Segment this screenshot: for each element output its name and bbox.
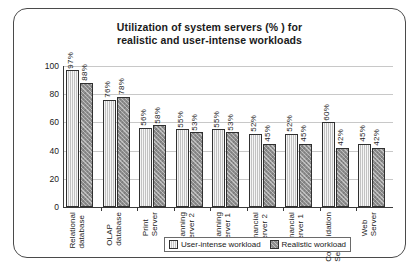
bar-value-label: 60% (322, 104, 331, 121)
chart-title: Utilization of system servers (% ) for r… (14, 21, 405, 47)
legend-label-realistic: Realistic workload (282, 240, 346, 249)
bar-group: 55%53% (210, 66, 247, 207)
y-axis-tick-label: 60 (37, 117, 59, 127)
y-axis-tick-label: 80 (37, 89, 59, 99)
y-axis-tick-label: 100 (37, 61, 59, 71)
bar-user-intense (249, 134, 262, 207)
y-axis-tick-label: 40 (37, 146, 59, 156)
bar-user-intense (66, 70, 79, 207)
bar-group: 56%58% (137, 66, 174, 207)
bar-realistic (372, 148, 385, 207)
y-axis-tick-labels: 100806040200 (35, 66, 59, 208)
bar-value-label: 45% (358, 125, 367, 142)
bar-realistic (80, 83, 93, 207)
x-axis-category-label: Print Server (141, 212, 159, 236)
bar-realistic (190, 132, 203, 207)
bar-value-label: 97% (66, 52, 75, 69)
bar-user-intense (285, 134, 298, 207)
bar-realistic (336, 148, 349, 207)
bar-realistic (153, 125, 166, 207)
bar-value-label: 88% (80, 64, 89, 81)
legend-entry-user-intense: User-intense workload (169, 240, 261, 249)
bar-value-label: 45% (263, 125, 272, 142)
bar-group: 76%78% (101, 66, 138, 207)
chart-title-line-2: realistic and user-intense workloads (14, 34, 405, 47)
bar-user-intense (176, 129, 189, 207)
bar-realistic (263, 144, 276, 207)
legend-label-user-intense: User-intense workload (181, 240, 261, 249)
legend-swatch-icon-realistic (270, 240, 279, 249)
bar-value-label: 42% (372, 129, 381, 146)
bar-value-label: 53% (190, 114, 199, 131)
x-axis-tick (283, 207, 284, 211)
legend-entry-realistic: Realistic workload (270, 240, 346, 249)
x-axis-tick (137, 207, 138, 211)
bar-realistic (226, 132, 239, 207)
chart-container: Utilization of system servers (% ) for r… (13, 8, 406, 258)
bar-value-label: 52% (249, 115, 258, 132)
bar-group: 45%42% (356, 66, 393, 207)
chart-title-line-1: Utilization of system servers (% ) for (14, 21, 405, 34)
plot-area: 97%88%Relational database76%78%OLAP data… (63, 66, 393, 208)
bar-user-intense (358, 144, 371, 207)
x-axis-tick (174, 207, 175, 211)
bar-value-label: 78% (117, 78, 126, 95)
bar-group: 60%42% (320, 66, 357, 207)
y-axis-tick-label: 20 (37, 174, 59, 184)
x-axis-tick (320, 207, 321, 211)
bar-user-intense (139, 128, 152, 207)
x-axis-category-label: Web Server (360, 212, 378, 236)
bar-group: 97%88% (64, 66, 101, 207)
bar-realistic (299, 144, 312, 207)
bar-value-label: 55% (176, 111, 185, 128)
bar-user-intense (103, 100, 116, 207)
x-axis-category-label: OLAP database (105, 212, 123, 246)
x-axis-tick (210, 207, 211, 211)
bar-value-label: 52% (285, 115, 294, 132)
bar-value-label: 42% (336, 129, 345, 146)
bar-value-label: 53% (226, 114, 235, 131)
bar-value-label: 76% (103, 81, 112, 98)
x-axis-tick (247, 207, 248, 211)
bar-value-label: 58% (153, 107, 162, 124)
bar-value-label: 56% (139, 109, 148, 126)
bar-user-intense (322, 122, 335, 207)
bar-group: 55%53% (174, 66, 211, 207)
legend-swatch-icon-user-intense (169, 240, 178, 249)
x-axis-category-label: Relational database (68, 212, 86, 249)
chart-legend: User-intense workload Realistic workload (164, 237, 351, 252)
x-axis-tick (101, 207, 102, 211)
y-axis-tick-label: 0 (37, 202, 59, 212)
bar-group: 52%45% (247, 66, 284, 207)
bar-value-label: 55% (212, 111, 221, 128)
bar-user-intense (212, 129, 225, 207)
bar-value-label: 45% (299, 125, 308, 142)
x-axis-tick (356, 207, 357, 211)
bar-realistic (117, 97, 130, 207)
bar-group: 52%45% (283, 66, 320, 207)
